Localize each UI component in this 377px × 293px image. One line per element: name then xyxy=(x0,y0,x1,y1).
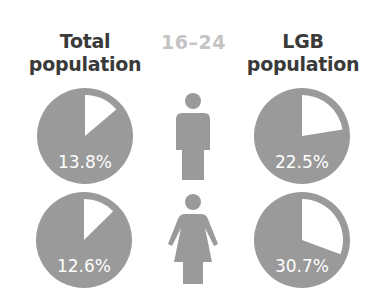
female-figure-icon xyxy=(168,194,218,284)
pie-female-total: 12.6% xyxy=(36,192,132,288)
pie-chart-grid: 13.8% 22.5% 12.6% 30.7% xyxy=(0,0,377,293)
pie-label-male-total: 13.8% xyxy=(58,152,112,172)
pie-male-total: 13.8% xyxy=(37,88,133,184)
pie-label-female-lgb: 30.7% xyxy=(275,256,329,276)
pie-label-male-lgb: 22.5% xyxy=(275,152,329,172)
pie-label-female-total: 12.6% xyxy=(57,256,111,276)
male-figure-icon xyxy=(176,93,210,180)
pie-male-lgb: 22.5% xyxy=(254,88,350,184)
pie-female-lgb: 30.7% xyxy=(254,192,350,288)
